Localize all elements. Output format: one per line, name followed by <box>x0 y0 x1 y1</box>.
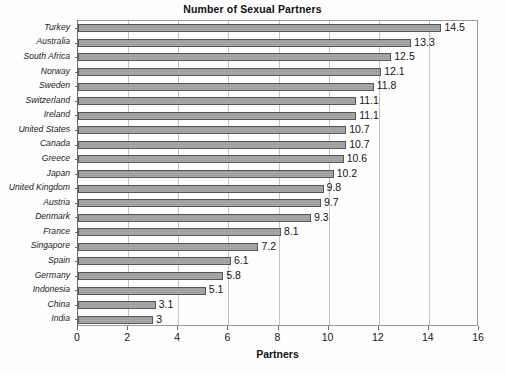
bar[interactable] <box>78 199 321 207</box>
x-axis-tick-label: 8 <box>258 331 298 343</box>
bar-row[interactable]: Turkey14.5 <box>78 22 477 37</box>
x-axis-tick <box>227 326 228 330</box>
bar-row[interactable]: France8.1 <box>78 226 477 241</box>
bar-row[interactable]: Australia13.3 <box>78 36 477 51</box>
bar[interactable] <box>78 24 441 32</box>
category-label: Austria <box>0 197 70 207</box>
bar-row[interactable]: Singapore7.2 <box>78 240 477 255</box>
category-label: South Africa <box>0 51 70 61</box>
bar-value-label: 3 <box>156 313 162 325</box>
bar-row[interactable]: Spain6.1 <box>78 255 477 270</box>
bar-rows: Turkey14.5Australia13.3South Africa12.5N… <box>78 21 477 325</box>
bar-value-label: 9.7 <box>324 196 339 208</box>
bar-value-label: 10.2 <box>337 167 357 179</box>
bar-row[interactable]: Japan10.2 <box>78 167 477 182</box>
x-axis-tick <box>478 326 479 330</box>
x-axis-tick-label: 4 <box>157 331 197 343</box>
bar-row[interactable]: Germany5.8 <box>78 269 477 284</box>
bar[interactable] <box>78 126 346 134</box>
bar-value-label: 13.3 <box>414 36 434 48</box>
bar-row[interactable]: China3.1 <box>78 299 477 314</box>
category-label: India <box>0 313 70 323</box>
bar[interactable] <box>78 68 381 76</box>
bar[interactable] <box>78 287 206 295</box>
x-axis-tick-label: 10 <box>308 331 348 343</box>
bar[interactable] <box>78 228 281 236</box>
bar[interactable] <box>78 257 231 265</box>
bar[interactable] <box>78 97 356 105</box>
bar-value-label: 10.7 <box>349 138 369 150</box>
category-label: Australia <box>0 36 70 46</box>
bar-row[interactable]: South Africa12.5 <box>78 51 477 66</box>
bar[interactable] <box>78 272 223 280</box>
bar-row[interactable]: Canada10.7 <box>78 138 477 153</box>
x-axis-tick-label: 0 <box>57 331 97 343</box>
x-axis-tick <box>328 326 329 330</box>
bar-value-label: 11.1 <box>359 109 379 121</box>
bar-row[interactable]: United States10.7 <box>78 124 477 139</box>
bar-value-label: 11.8 <box>377 79 397 91</box>
category-label: Norway <box>0 66 70 76</box>
bar[interactable] <box>78 39 411 47</box>
bar-value-label: 5.8 <box>226 269 241 281</box>
bar-value-label: 11.1 <box>359 94 379 106</box>
bar-row[interactable]: Switzerland11.1 <box>78 95 477 110</box>
x-axis-title: Partners <box>77 348 478 360</box>
bar-row[interactable]: Greece10.6 <box>78 153 477 168</box>
category-label: United Kingdom <box>0 182 70 192</box>
bar-value-label: 10.7 <box>349 123 369 135</box>
x-axis-tick <box>77 326 78 330</box>
bar-value-label: 3.1 <box>159 298 174 310</box>
category-label: France <box>0 226 70 236</box>
bar-row[interactable]: Ireland11.1 <box>78 109 477 124</box>
category-label: Spain <box>0 255 70 265</box>
x-axis-tick <box>378 326 379 330</box>
bar[interactable] <box>78 170 334 178</box>
category-label: Sweden <box>0 80 70 90</box>
x-axis-tick <box>127 326 128 330</box>
bar[interactable] <box>78 155 344 163</box>
chart-title: Number of Sexual Partners <box>0 3 505 15</box>
x-axis-tick-label: 14 <box>408 331 448 343</box>
bar[interactable] <box>78 53 391 61</box>
chart-container: Number of Sexual Partners Turkey14.5Aust… <box>0 0 505 375</box>
bar-row[interactable]: Denmark9.3 <box>78 211 477 226</box>
category-label: Greece <box>0 153 70 163</box>
bar-row[interactable]: Sweden11.8 <box>78 80 477 95</box>
bar-value-label: 14.5 <box>444 21 464 33</box>
bar-row[interactable]: Norway12.1 <box>78 65 477 80</box>
bar-value-label: 10.6 <box>347 152 367 164</box>
plot-area: Turkey14.5Australia13.3South Africa12.5N… <box>77 20 478 326</box>
bar-value-label: 9.8 <box>327 181 342 193</box>
category-label: Ireland <box>0 109 70 119</box>
x-axis-tick <box>177 326 178 330</box>
bar[interactable] <box>78 243 258 251</box>
bar[interactable] <box>78 316 153 324</box>
bar[interactable] <box>78 141 346 149</box>
category-label: Denmark <box>0 211 70 221</box>
bar[interactable] <box>78 112 356 120</box>
bar[interactable] <box>78 83 374 91</box>
bar-value-label: 12.5 <box>394 50 414 62</box>
category-label: Indonesia <box>0 284 70 294</box>
category-label: United States <box>0 124 70 134</box>
bar-value-label: 6.1 <box>234 254 249 266</box>
bar-value-label: 12.1 <box>384 65 404 77</box>
category-label: China <box>0 299 70 309</box>
category-label: Switzerland <box>0 95 70 105</box>
x-axis-tick <box>278 326 279 330</box>
bar-row[interactable]: Austria9.7 <box>78 197 477 212</box>
category-label: Singapore <box>0 240 70 250</box>
bar[interactable] <box>78 301 156 309</box>
x-axis-tick <box>428 326 429 330</box>
bar-value-label: 8.1 <box>284 225 299 237</box>
category-label: Japan <box>0 168 70 178</box>
x-axis-tick-label: 16 <box>458 331 498 343</box>
bar[interactable] <box>78 185 324 193</box>
bar-value-label: 7.2 <box>261 240 276 252</box>
bar-row[interactable]: United Kingdom9.8 <box>78 182 477 197</box>
x-axis-tick-label: 2 <box>107 331 147 343</box>
bar[interactable] <box>78 214 311 222</box>
x-axis-tick-label: 12 <box>358 331 398 343</box>
bar-row[interactable]: Indonesia5.1 <box>78 284 477 299</box>
